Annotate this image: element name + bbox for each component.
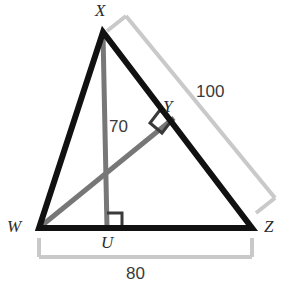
dimension-bracket-wz — [39, 238, 252, 257]
vertex-label-z: Z — [264, 218, 273, 235]
measurement-label-altitude: 70 — [109, 118, 128, 135]
vertex-label-y: Y — [163, 98, 172, 115]
vertex-label-x: X — [95, 2, 105, 19]
bracket-xz-tick-top — [107, 16, 126, 31]
dimension-bracket-xz — [107, 16, 275, 213]
vertex-label-w: W — [7, 218, 21, 235]
segment-xu-altitude — [103, 34, 107, 228]
vertex-label-u: U — [101, 234, 113, 251]
measurement-label-side-xz: 100 — [196, 83, 224, 100]
bracket-xz-tick-bottom — [256, 198, 275, 213]
measurement-label-side-wz: 80 — [126, 265, 145, 281]
bracket-xz-main-line — [126, 16, 275, 198]
diagram-svg — [0, 0, 287, 281]
geometry-diagram-canvas: X W Z U Y 70 100 80 — [0, 0, 287, 281]
